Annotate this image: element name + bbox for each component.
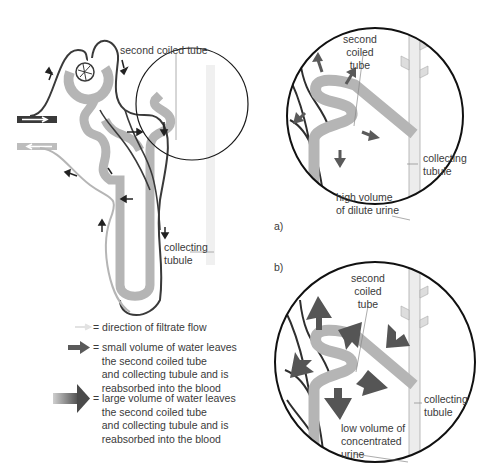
legend-large-water: = large volume of water leaves the secon… — [93, 392, 236, 446]
diagram-artwork — [0, 0, 494, 475]
panel-b-label-second-coiled-tube: second coiled tube — [351, 272, 385, 311]
nephron-overview — [17, 41, 248, 315]
panel-a-label-collecting-tubule: collecting tubule — [423, 152, 467, 178]
legend-icons — [53, 325, 90, 414]
panel-b-label-collecting-tubule: collecting tubule — [424, 393, 468, 419]
large-grey-arrow-icon — [53, 384, 90, 413]
panel-b-label-urine: low volume of concentrated urine — [341, 422, 405, 461]
panel-a-label-urine: high volume of dilute urine — [336, 191, 399, 217]
legend-filtrate-flow: = direction of filtrate flow — [93, 321, 207, 335]
panel-a-tag: a) — [274, 220, 283, 233]
small-grey-arrow-icon — [68, 341, 90, 354]
overview-label-second-coiled-tube: second coiled tube — [120, 44, 208, 57]
panel-b-tag: b) — [274, 261, 283, 274]
panel-a-label-second-coiled-tube: second coiled tube — [343, 33, 377, 72]
nephron-diagram: second coiled tube collecting tubule sec… — [0, 0, 494, 475]
legend-small-water: = small volume of water leaves the secon… — [93, 341, 237, 395]
overview-label-collecting-tubule: collecting tubule — [164, 241, 208, 267]
white-flow-arrow-icon — [75, 325, 90, 330]
